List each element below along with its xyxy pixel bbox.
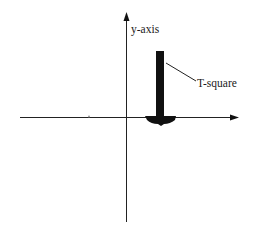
t-square-head xyxy=(145,116,176,126)
y-axis-label: y-axis xyxy=(131,24,159,36)
diagram-canvas: y-axis T-square xyxy=(0,0,259,234)
t-square-blade xyxy=(156,51,164,119)
t-square-label: T-square xyxy=(197,78,237,90)
diagram-svg xyxy=(0,0,259,234)
x-axis xyxy=(20,115,239,121)
x-axis-arrowhead-icon xyxy=(230,115,239,121)
t-square-leader-line xyxy=(166,63,196,81)
tick-mark xyxy=(88,116,90,118)
y-axis-arrowhead-icon xyxy=(124,12,130,21)
t-square xyxy=(145,51,176,126)
